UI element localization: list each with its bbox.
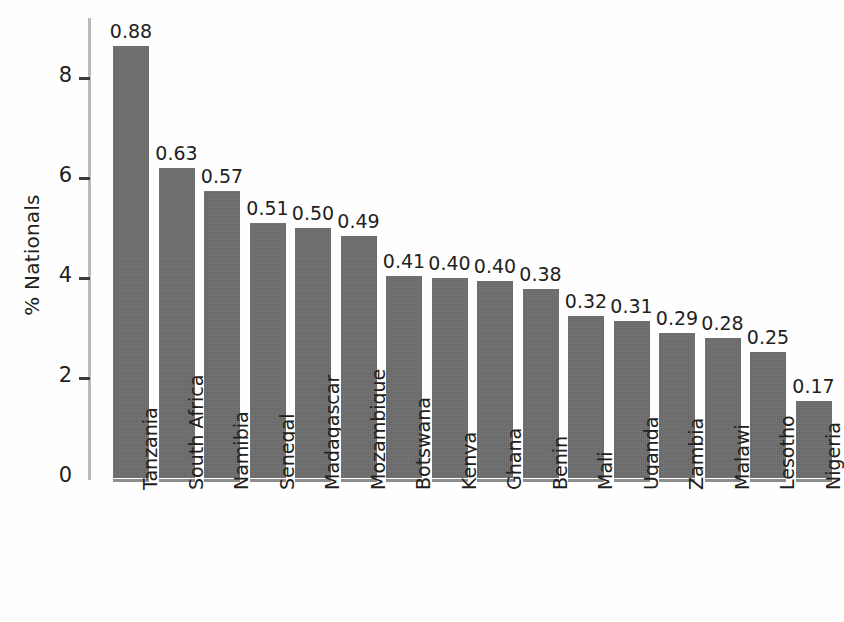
bar-value-label: 0.63 — [147, 142, 207, 164]
bar-value-label: 0.57 — [192, 165, 252, 187]
y-axis-tick-label: 0 — [40, 463, 72, 487]
y-axis-tick — [79, 77, 90, 80]
y-axis-tick-label: 2 — [40, 363, 72, 387]
y-axis-tick — [79, 177, 90, 180]
x-axis-category-label: Nigeria — [822, 422, 844, 490]
y-axis-tick-label: 6 — [40, 163, 72, 187]
bar-value-label: 0.88 — [101, 20, 161, 42]
bar-value-label: 0.17 — [784, 375, 844, 397]
y-axis-tick-label: 4 — [40, 263, 72, 287]
y-axis-tick — [79, 377, 90, 380]
bar-value-label: 0.38 — [511, 263, 571, 285]
bar-value-label: 0.25 — [738, 326, 798, 348]
y-axis-tick — [79, 277, 90, 280]
y-axis-tick-label: 8 — [40, 63, 72, 87]
bar-value-label: 0.49 — [329, 210, 389, 232]
